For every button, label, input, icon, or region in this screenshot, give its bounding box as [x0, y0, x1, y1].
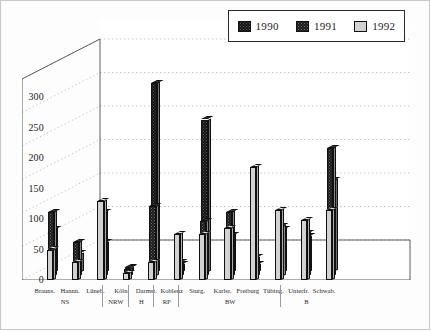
- bar-side-face: [332, 208, 335, 280]
- legend-label-1990: 1990: [256, 20, 279, 32]
- group-separator: [178, 285, 179, 307]
- bar-side-face: [53, 248, 56, 280]
- legend-label-1992: 1992: [372, 20, 395, 32]
- bar: [326, 210, 332, 280]
- bar: [250, 167, 256, 280]
- bar-side-face: [180, 233, 183, 280]
- x-axis-group-label: RP: [154, 298, 179, 306]
- bar: [47, 250, 53, 280]
- bar-front-face: [123, 273, 129, 280]
- legend-item-1991[interactable]: 1991: [296, 20, 337, 32]
- bar-front-face: [148, 262, 154, 280]
- bar-side-face: [205, 233, 208, 280]
- bars-layer: [22, 18, 412, 280]
- legend-item-1992[interactable]: 1992: [354, 20, 395, 32]
- x-axis-group-label: NRW: [103, 298, 128, 306]
- bar: [97, 201, 103, 280]
- x-axis-group-label: B: [294, 298, 319, 306]
- bar-front-face: [224, 228, 230, 280]
- bar: [224, 228, 230, 280]
- bar-side-face: [256, 166, 259, 280]
- legend-swatch-1991-icon: [296, 21, 309, 32]
- legend-swatch-1992-icon: [354, 21, 367, 32]
- legend-swatch-1990-icon: [238, 21, 251, 32]
- bar-front-face: [275, 210, 281, 280]
- x-axis-category-label: Schwab.: [306, 287, 341, 295]
- chart-page: 050100150200250300 1990 1991 1992 Brauns…: [0, 0, 431, 331]
- legend-item-1990[interactable]: 1990: [238, 20, 279, 32]
- bar-front-face: [199, 234, 205, 280]
- bar-front-face: [250, 167, 256, 280]
- bar-front-face: [47, 250, 53, 280]
- bar: [301, 220, 307, 280]
- bar-front-face: [72, 262, 78, 280]
- x-axis-labels: Brauns.Hannn.Lüneb.KölnDarmst.KoblenzStu…: [22, 287, 418, 323]
- bar-side-face: [231, 227, 234, 280]
- x-axis-group-label: BW: [218, 298, 243, 306]
- bar-front-face: [301, 220, 307, 280]
- bar-front-face: [326, 210, 332, 280]
- group-separator: [280, 285, 281, 307]
- bar-front-face: [174, 234, 180, 280]
- bar-side-face: [307, 219, 310, 280]
- bar: [148, 262, 154, 280]
- bar-side-face: [281, 208, 284, 280]
- chart-legend: 1990 1991 1992: [228, 10, 405, 42]
- bar-side-face: [78, 260, 81, 280]
- bar-side-face: [104, 199, 107, 280]
- legend-label-1991: 1991: [314, 20, 337, 32]
- bar-side-face: [154, 260, 157, 280]
- bar: [174, 234, 180, 280]
- x-axis-group-label: H: [129, 298, 154, 306]
- bar-front-face: [97, 201, 103, 280]
- bar: [275, 210, 281, 280]
- bar: [199, 234, 205, 280]
- bar: [72, 262, 78, 280]
- x-axis-group-label: NS: [52, 298, 77, 306]
- bar: [123, 273, 129, 280]
